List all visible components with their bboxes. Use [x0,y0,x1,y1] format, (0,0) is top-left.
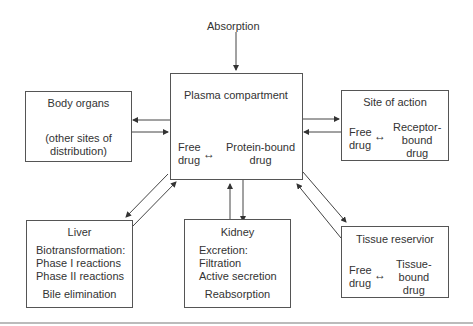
kidney-lines: Excretion:FiltrationActive secretion [199,244,277,283]
plasma-title: Plasma compartment [184,89,288,102]
kidney-footer: Reabsorption [184,288,291,301]
plasma-free-drug: Freedrug [178,141,201,167]
liver-footer: Bile elimination [26,288,133,301]
tissue-free-drug: Freedrug [349,264,372,290]
site-double-arrow-icon: ↔ [374,130,386,143]
liver-title: Liver [26,226,133,239]
plasma-double-arrow-icon: ↔ [203,148,215,161]
tissue-reservoir-title: Tissue reservior [341,233,449,246]
absorption-label: Absorption [207,20,260,33]
kidney-title: Kidney [184,226,291,239]
body-organs-subtitle: (other sites ofdistribution) [25,132,132,158]
tissue-bound-drug: Tissue-bounddrug [396,258,432,297]
tissue-double-arrow-icon: ↔ [374,269,386,282]
site-receptor-bound-drug: Receptor-bounddrug [393,121,441,160]
liver-lines: Biotransformation:Phase I reactionsPhase… [36,244,125,283]
bottom-divider [0,322,473,324]
site-of-action-title: Site of action [341,96,449,109]
site-free-drug: Freedrug [349,126,372,152]
body-organs-title: Body organs [25,97,132,110]
plasma-protein-bound-drug: Protein-bounddrug [226,141,295,167]
